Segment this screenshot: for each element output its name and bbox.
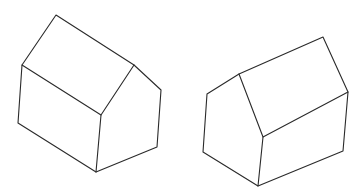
figure-canvas [0, 0, 364, 195]
house-right [203, 37, 348, 186]
houses-diagram [0, 0, 364, 195]
house-left [18, 15, 161, 172]
